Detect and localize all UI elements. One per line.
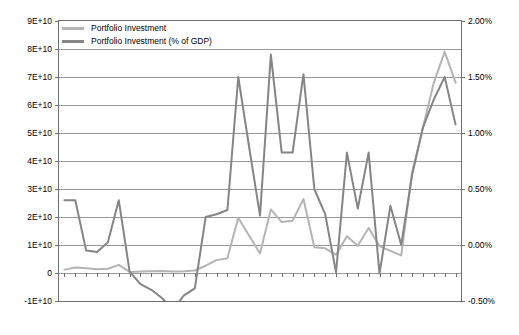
legend-swatch-icon	[62, 27, 84, 30]
y-axis-left-tick-label: 4E+10	[4, 157, 52, 166]
y-tick-right	[461, 245, 465, 246]
series-lines	[59, 21, 461, 301]
y-axis-right-tick-label: 1.00%	[468, 129, 518, 138]
y-tick-left	[55, 301, 59, 302]
y-tick-right	[461, 21, 465, 22]
legend-label: Portfolio Investment	[91, 24, 166, 33]
y-tick-right	[461, 189, 465, 190]
y-axis-left-tick-label: 1E+10	[4, 241, 52, 250]
portfolio-investment-chart: 9E+108E+107E+106E+105E+104E+103E+102E+10…	[0, 0, 519, 335]
y-axis-left-tick-label: -1E+10	[4, 297, 52, 306]
y-axis-left-tick-label: 5E+10	[4, 129, 52, 138]
y-axis-left-tick-label: 9E+10	[4, 17, 52, 26]
y-axis-left-tick-label: 3E+10	[4, 185, 52, 194]
y-axis-left-tick-label: 6E+10	[4, 101, 52, 110]
legend-item[interactable]: Portfolio Investment	[62, 22, 212, 35]
series-line	[64, 55, 455, 301]
legend-swatch-icon	[62, 40, 84, 43]
series-line	[64, 52, 455, 272]
y-axis-left-tick-label: 2E+10	[4, 213, 52, 222]
chart-legend: Portfolio InvestmentPortfolio Investment…	[62, 22, 212, 48]
y-axis-left-tick-label: 7E+10	[4, 73, 52, 82]
y-axis-left-tick-label: 8E+10	[4, 45, 52, 54]
legend-item[interactable]: Portfolio Investment (% of GDP)	[62, 35, 212, 48]
y-axis-right-tick-label: 0.50%	[468, 185, 518, 194]
y-axis-right-tick-label: 2.00%	[468, 17, 518, 26]
legend-label: Portfolio Investment (% of GDP)	[91, 37, 212, 46]
y-axis-right-tick-label: 0.00%	[468, 241, 518, 250]
y-tick-right	[461, 77, 465, 78]
y-axis-right-tick-label: 1.50%	[468, 73, 518, 82]
y-axis-left-tick-label: 0	[4, 269, 52, 278]
y-axis-right-tick-label: -0.50%	[468, 297, 518, 306]
y-tick-right	[461, 301, 465, 302]
y-tick-right	[461, 133, 465, 134]
plot-area	[58, 20, 462, 302]
